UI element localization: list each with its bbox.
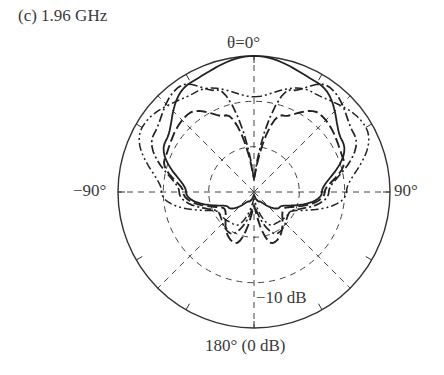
series-3-dashed	[164, 111, 344, 243]
tick-240	[136, 257, 142, 261]
tick-60	[366, 124, 372, 128]
tick-30	[319, 74, 323, 80]
tick-150	[319, 304, 323, 310]
chart-title: (c) 1.96 GHz	[18, 6, 107, 26]
label-minus90deg: −90°	[73, 181, 106, 201]
label-0deg: θ=0°	[227, 33, 260, 53]
tick-120	[366, 257, 372, 261]
tick-300	[136, 124, 142, 128]
tick-330	[186, 74, 190, 80]
label-minus10db: −10 dB	[256, 288, 307, 308]
tick-210	[186, 304, 190, 310]
polar-plot	[0, 0, 444, 375]
label-180deg: 180° (0 dB)	[205, 336, 285, 356]
label-90deg: 90°	[394, 181, 418, 201]
